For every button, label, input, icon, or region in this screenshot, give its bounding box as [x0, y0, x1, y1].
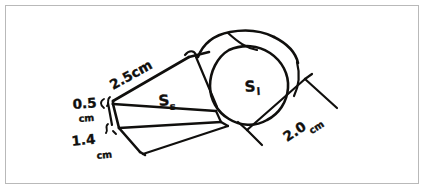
diameter-label-group: 2.0 cm — [280, 109, 326, 150]
prism-depth-unit: cm — [96, 148, 113, 161]
prism-top-right-edge — [196, 57, 217, 107]
height-bracket-line — [108, 103, 112, 125]
prism-front-left-edge — [113, 104, 119, 128]
small-face-subscript: s — [169, 101, 176, 112]
prism-bottom-right-join — [221, 122, 228, 126]
prism-depth-value: 1.4 — [71, 131, 96, 149]
prism-height-value: 0.5 — [72, 94, 97, 112]
diameter-bracket-end-tick-right — [305, 74, 312, 79]
prism-front-bottom-edge — [119, 122, 221, 128]
cylinder-right-side — [294, 62, 299, 96]
height-bracket-bottom-tick — [106, 124, 108, 133]
prism-length-value: 2.5cm — [107, 56, 155, 92]
depth-label-group: 1.4 cm — [71, 131, 113, 161]
length-bracket-tick — [101, 99, 104, 108]
large-face-subscript: l — [256, 86, 260, 97]
length-label-group: 2.5cm — [107, 56, 155, 92]
whistle-sketch: 2.5cm 0.5 cm 1.4 cm 2.0 cm S s S l — [0, 0, 426, 191]
prism-bottom-face-edge — [143, 126, 228, 154]
small-face-label-group: S s — [158, 91, 176, 112]
cylinder-diameter-value: 2.0 — [280, 118, 309, 144]
cylinder-diameter-unit: cm — [307, 118, 326, 136]
large-face-label-group: S l — [244, 77, 261, 97]
figure-frame: 2.5cm 0.5 cm 1.4 cm 2.0 cm S s S l — [0, 0, 426, 191]
prism-left-face-bottom-diag — [119, 128, 140, 152]
diameter-bracket-extension — [247, 130, 262, 145]
large-face-symbol: S — [244, 77, 256, 96]
diameter-bracket-line-upper — [305, 79, 337, 108]
prism-height-unit: cm — [78, 112, 94, 124]
depth-bracket-tick — [113, 131, 116, 134]
height-label-group: 0.5 cm — [72, 94, 97, 124]
